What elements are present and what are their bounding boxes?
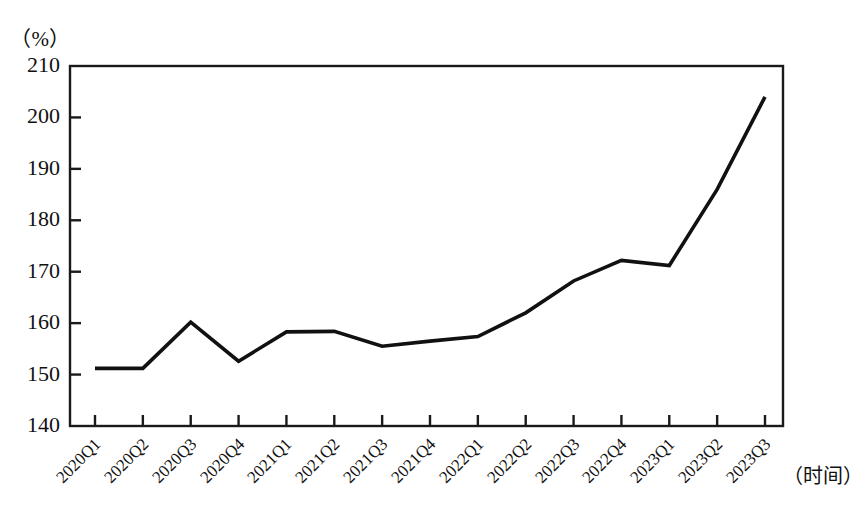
plot-frame-border [70,66,783,426]
chart-figure: （%） 210200190180170160150140 2020Q12020Q… [0,0,858,532]
y-axis-tick-marks [70,117,81,374]
x-axis-tick-marks [95,415,765,426]
chart-plot-area [0,0,858,532]
data-series-line [95,97,765,369]
